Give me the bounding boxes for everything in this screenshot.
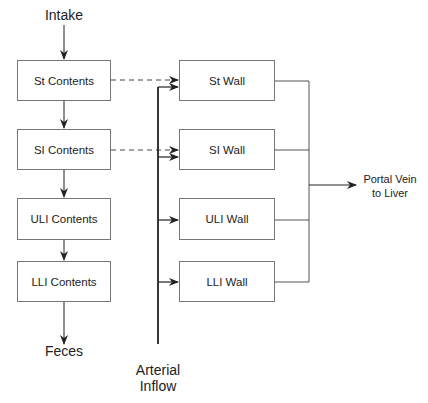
uli-wall-box: ULI Wall bbox=[179, 198, 275, 240]
st-contents-label: St Contents bbox=[34, 75, 94, 87]
si-contents-box: SI Contents bbox=[17, 129, 111, 170]
portal-label-line2: to Liver bbox=[355, 186, 425, 200]
arterial-label-line1: Arterial bbox=[118, 362, 198, 378]
st-wall-box: St Wall bbox=[179, 60, 275, 101]
uli-wall-label: ULI Wall bbox=[205, 213, 248, 225]
portal-label-line1: Portal Vein bbox=[355, 172, 425, 186]
lli-contents-label: LLI Contents bbox=[31, 276, 96, 288]
si-wall-box: SI Wall bbox=[179, 129, 275, 170]
arterial-label-line2: Inflow bbox=[118, 378, 198, 394]
lli-wall-label: LLI Wall bbox=[206, 276, 247, 288]
portal-vein-label: Portal Vein to Liver bbox=[355, 172, 425, 200]
feces-label: Feces bbox=[29, 343, 99, 359]
si-wall-label: SI Wall bbox=[209, 144, 245, 156]
lli-contents-box: LLI Contents bbox=[17, 261, 111, 302]
uli-contents-box: ULI Contents bbox=[17, 198, 111, 240]
uli-contents-label: ULI Contents bbox=[30, 213, 97, 225]
st-contents-box: St Contents bbox=[17, 60, 111, 101]
si-contents-label: SI Contents bbox=[34, 144, 94, 156]
intake-label: Intake bbox=[34, 7, 94, 23]
st-wall-label: St Wall bbox=[209, 75, 245, 87]
lli-wall-box: LLI Wall bbox=[179, 261, 275, 302]
arterial-inflow-label: Arterial Inflow bbox=[118, 362, 198, 394]
